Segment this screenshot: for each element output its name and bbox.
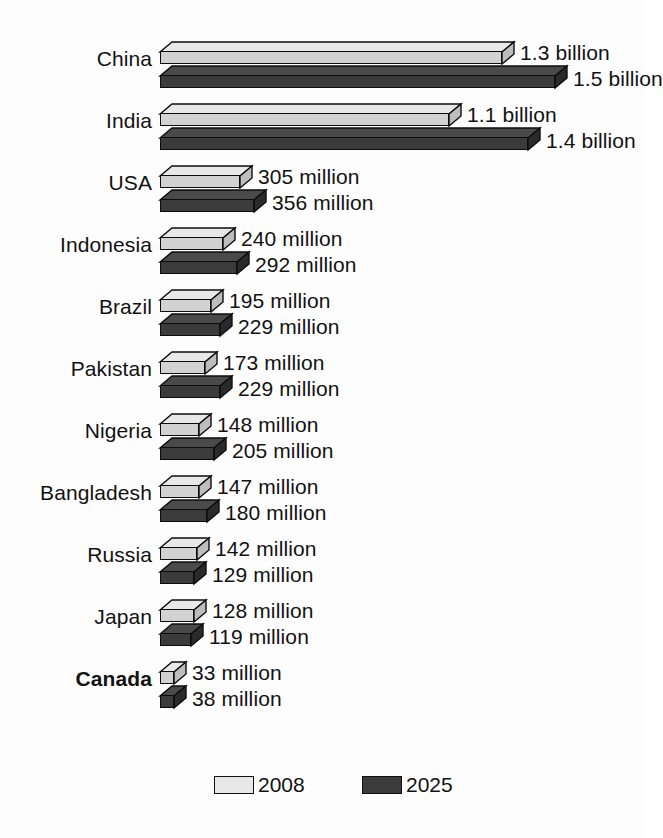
value-label-2025: 356 million	[272, 192, 374, 214]
bar-front-face	[160, 509, 207, 522]
bar-side-face	[197, 538, 209, 560]
bar-side-face	[199, 476, 211, 498]
bar-front-face	[160, 423, 199, 436]
value-label-2025: 1.4 billion	[546, 130, 636, 152]
bar-front-face	[160, 695, 174, 708]
value-label-2025: 119 million	[209, 626, 309, 648]
category-label-russia: Russia	[0, 544, 152, 566]
bar-dark	[160, 128, 540, 150]
bar-light	[160, 104, 461, 126]
value-label-2025: 229 million	[238, 378, 340, 400]
category-label-canada: Canada	[0, 668, 152, 690]
legend-item-2025: 2025	[362, 772, 453, 798]
value-label-2025: 292 million	[255, 254, 357, 276]
chart-row: China1.3 billion1.5 billion	[0, 36, 643, 98]
bar-light	[160, 538, 209, 560]
bar-side-face	[240, 166, 252, 188]
category-label-bangladesh: Bangladesh	[0, 482, 152, 504]
bar-front-face	[160, 75, 555, 88]
chart-legend: 2008 2025	[0, 772, 643, 802]
bar-front-face	[160, 485, 199, 498]
category-label-pakistan: Pakistan	[0, 358, 152, 380]
value-label-2008: 33 million	[192, 662, 282, 684]
bar-front-face	[160, 633, 191, 646]
value-label-2008: 142 million	[215, 538, 317, 560]
bar-side-face	[205, 352, 217, 374]
value-label-2008: 148 million	[217, 414, 319, 436]
chart-row: India1.1 billion1.4 billion	[0, 98, 643, 160]
bar-side-face	[555, 66, 567, 88]
legend-swatch-2008	[214, 776, 254, 794]
bar-front-face	[160, 299, 211, 312]
bar-side-face	[502, 42, 514, 64]
category-label-brazil: Brazil	[0, 296, 152, 318]
bar-side-face	[220, 314, 232, 336]
bar-side-face	[449, 104, 461, 126]
value-label-2025: 38 million	[192, 688, 282, 710]
bar-light	[160, 228, 235, 250]
bar-front-face	[160, 361, 205, 374]
bar-light	[160, 662, 186, 684]
bar-side-face	[174, 662, 186, 684]
bar-light	[160, 600, 206, 622]
bar-front-face	[160, 385, 220, 398]
bar-side-face	[528, 128, 540, 150]
bar-front-face	[160, 175, 240, 188]
bar-side-face	[174, 686, 186, 708]
bar-side-face	[220, 376, 232, 398]
category-label-china: China	[0, 48, 152, 70]
bar-front-face	[160, 323, 220, 336]
value-label-2025: 205 million	[232, 440, 334, 462]
bar-light	[160, 476, 211, 498]
bar-side-face	[254, 190, 266, 212]
bar-dark	[160, 376, 232, 398]
category-label-indonesia: Indonesia	[0, 234, 152, 256]
bar-front-face	[160, 547, 197, 560]
value-label-2008: 147 million	[217, 476, 319, 498]
bar-dark	[160, 66, 567, 88]
value-label-2008: 128 million	[212, 600, 314, 622]
value-label-2025: 229 million	[238, 316, 340, 338]
bar-dark	[160, 252, 249, 274]
chart-row: Pakistan173 million229 million	[0, 346, 643, 408]
legend-swatch-2025	[362, 776, 402, 794]
category-label-usa: USA	[0, 172, 152, 194]
value-label-2025: 180 million	[225, 502, 327, 524]
bar-front-face	[160, 261, 237, 274]
value-label-2025: 129 million	[212, 564, 314, 586]
bar-dark	[160, 624, 203, 646]
bar-light	[160, 42, 514, 64]
legend-item-2008: 2008	[214, 772, 305, 798]
category-label-japan: Japan	[0, 606, 152, 628]
bar-front-face	[160, 609, 194, 622]
value-label-2008: 240 million	[241, 228, 343, 250]
bar-dark	[160, 438, 226, 460]
bar-front-face	[160, 51, 502, 64]
bar-front-face	[160, 671, 174, 684]
value-label-2008: 1.3 billion	[520, 42, 610, 64]
legend-label-2025: 2025	[406, 774, 453, 796]
bar-light	[160, 290, 223, 312]
bar-front-face	[160, 113, 449, 126]
bar-side-face	[194, 562, 206, 584]
bar-dark	[160, 190, 266, 212]
bar-dark	[160, 314, 232, 336]
bar-front-face	[160, 237, 223, 250]
value-label-2008: 305 million	[258, 166, 360, 188]
chart-row: Indonesia240 million292 million	[0, 222, 643, 284]
bar-side-face	[214, 438, 226, 460]
category-label-nigeria: Nigeria	[0, 420, 152, 442]
value-label-2008: 173 million	[223, 352, 325, 374]
bar-dark	[160, 562, 206, 584]
legend-label-2008: 2008	[258, 774, 305, 796]
bar-front-face	[160, 199, 254, 212]
value-label-2025: 1.5 billion	[573, 68, 663, 90]
chart-row: USA305 million356 million	[0, 160, 643, 222]
chart-row: Russia142 million129 million	[0, 532, 643, 594]
bar-side-face	[199, 414, 211, 436]
bar-light	[160, 166, 252, 188]
chart-row: Canada33 million38 million	[0, 656, 643, 718]
bar-side-face	[191, 624, 203, 646]
bar-side-face	[194, 600, 206, 622]
